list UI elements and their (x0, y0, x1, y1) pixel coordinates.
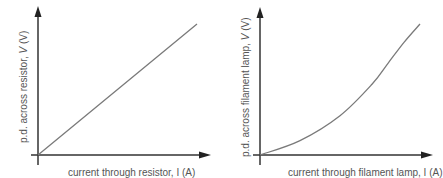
y-axis-label-text: p.d. across filament lamp, (240, 40, 251, 157)
x-axis-label: current through filament lamp, I (A) (288, 167, 443, 178)
x-axis-arrow-icon (199, 152, 211, 159)
y-axis-label: p.d. across filament lamp, V (V) (240, 18, 251, 158)
y-axis-arrow-icon (35, 6, 42, 17)
filament-lamp-graph: p.d. across filament lamp, V (V) current… (218, 0, 437, 172)
resistor-line (38, 24, 197, 155)
filament-lamp-curve (260, 24, 420, 155)
y-axis-label-text: p.d. across resistor, (18, 54, 29, 143)
resistor-graph-plot (0, 0, 218, 172)
y-axis-label-unit: (V) (240, 18, 251, 34)
y-axis-label-variable: V (18, 47, 29, 54)
x-axis-label: current through resistor, I (A) (68, 167, 195, 178)
y-axis-label-variable: V (240, 34, 251, 41)
y-axis-arrow-icon (257, 7, 264, 18)
x-axis-arrow-icon (421, 152, 433, 159)
y-axis-label-unit: (V) (18, 31, 29, 47)
y-axis-label: p.d. across resistor, V (V) (18, 31, 29, 143)
resistor-graph: p.d. across resistor, V (V) current thro… (0, 0, 218, 172)
